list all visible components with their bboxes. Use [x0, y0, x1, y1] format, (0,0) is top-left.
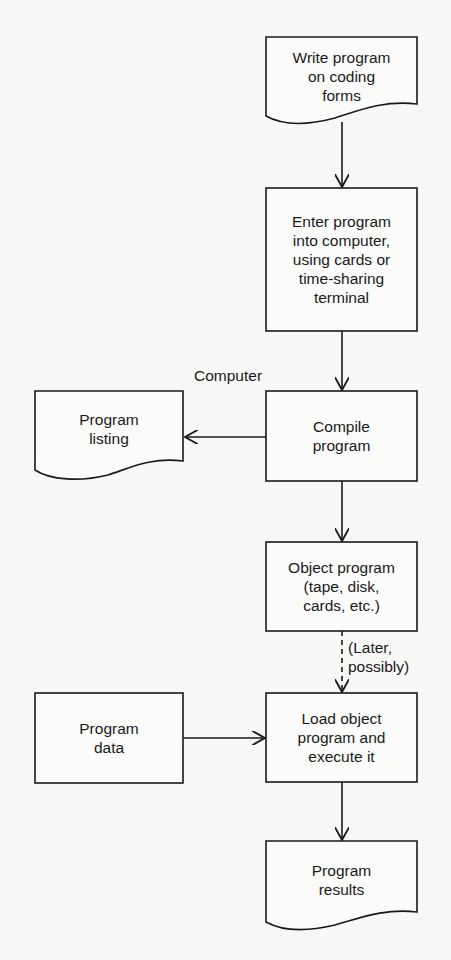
computer-label: Computer: [194, 366, 262, 385]
node-program-listing: Program listing: [35, 391, 183, 467]
node-write-program: Write program on coding forms: [266, 40, 417, 112]
node-compile-program: Compile program: [266, 391, 417, 481]
node-enter-program: Enter program into computer, using cards…: [266, 188, 417, 331]
node-program-results: Program results: [266, 841, 417, 919]
later-possibly-label: (Later, possibly): [348, 638, 409, 676]
node-load-execute: Load object program and execute it: [266, 693, 417, 782]
node-program-data: Program data: [35, 693, 183, 783]
node-object-program: Object program (tape, disk, cards, etc.): [266, 542, 417, 631]
